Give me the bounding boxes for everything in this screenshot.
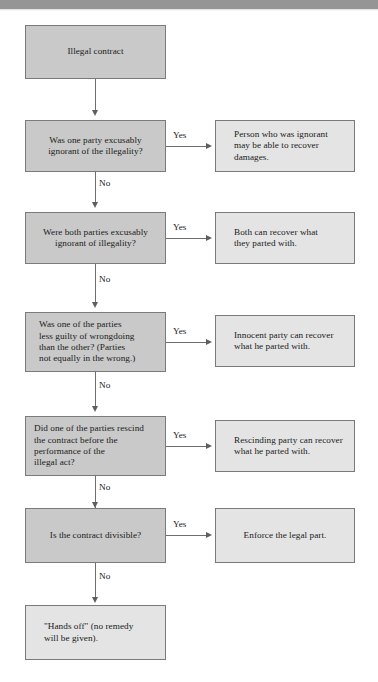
connector-q5-no	[95, 563, 96, 599]
node-q3-less-guilty[interactable]: Was one of the parties less guilty of wr…	[25, 312, 166, 372]
edge-label-q4-no: No	[99, 482, 110, 492]
node-q5-label: Is the contract divisible?	[26, 530, 165, 541]
edge-label-q5-yes: Yes	[173, 519, 186, 529]
edge-label-q4-yes: Yes	[173, 430, 186, 440]
arrowhead-q2-no	[92, 302, 98, 308]
node-q1-one-party-ignorant[interactable]: Was one party excusably ignorant of the …	[25, 120, 166, 172]
arrowhead-q4-yes	[206, 443, 212, 449]
top-bar-shadow	[0, 9, 378, 11]
node-q4-label: Did one of the parties rescind the contr…	[26, 423, 165, 469]
node-a4-label: Rescinding party can recover what he par…	[216, 435, 354, 458]
node-end-label: "Hands off" (no remedy will be given).	[26, 621, 165, 644]
arrowhead-q1-yes	[206, 143, 212, 149]
node-q5-contract-divisible[interactable]: Is the contract divisible?	[25, 508, 166, 563]
top-gray-bar	[0, 0, 378, 9]
connector-q4-yes	[166, 446, 208, 447]
connector-q1-yes	[166, 146, 208, 147]
connector-q3-yes	[166, 342, 208, 343]
connector-q2-yes	[166, 238, 208, 239]
connector-q1-no	[95, 172, 96, 204]
edge-label-q1-yes: Yes	[173, 130, 186, 140]
node-a3-label: Innocent party can recover what he parte…	[216, 330, 354, 353]
edge-label-q3-no: No	[99, 380, 110, 390]
connector-q5-yes	[166, 535, 208, 536]
node-q3-label: Was one of the parties less guilty of wr…	[26, 319, 165, 365]
edge-label-q2-yes: Yes	[173, 222, 186, 232]
node-end-hands-off[interactable]: "Hands off" (no remedy will be given).	[25, 605, 166, 660]
edge-label-q5-no: No	[99, 571, 110, 581]
node-start-illegal-contract[interactable]: Illegal contract	[25, 25, 166, 79]
node-a3-innocent-party-recover[interactable]: Innocent party can recover what he parte…	[215, 315, 355, 367]
arrowhead-q3-no	[92, 406, 98, 412]
node-a1-recover-damages[interactable]: Person who was ignorant may be able to r…	[215, 120, 355, 172]
node-q4-rescind-before-performance[interactable]: Did one of the parties rescind the contr…	[25, 416, 166, 476]
node-q2-both-parties-ignorant[interactable]: Were both parties excusably ignorant of …	[25, 212, 166, 264]
arrowhead-start-to-q1	[92, 110, 98, 116]
node-a4-rescinding-party-recover[interactable]: Rescinding party can recover what he par…	[215, 420, 355, 472]
node-a5-label: Enforce the legal part.	[216, 530, 354, 541]
arrowhead-q3-yes	[206, 339, 212, 345]
arrowhead-q5-no	[92, 597, 98, 603]
connector-q2-no	[95, 264, 96, 304]
arrowhead-q2-yes	[206, 235, 212, 241]
connector-q3-no	[95, 372, 96, 408]
node-q2-label: Were both parties excusably ignorant of …	[26, 227, 165, 250]
node-a5-enforce-legal-part[interactable]: Enforce the legal part.	[215, 508, 355, 563]
edge-label-q2-no: No	[99, 274, 110, 284]
node-a2-label: Both can recover what they parted with.	[216, 227, 354, 250]
node-a1-label: Person who was ignorant may be able to r…	[216, 129, 354, 163]
flowchart-canvas: Illegal contract Was one party excusably…	[0, 0, 378, 682]
edge-label-q3-yes: Yes	[173, 326, 186, 336]
node-start-label: Illegal contract	[26, 46, 165, 57]
node-a2-both-can-recover[interactable]: Both can recover what they parted with.	[215, 212, 355, 264]
edge-label-q1-no: No	[99, 178, 110, 188]
arrowhead-q5-yes	[206, 532, 212, 538]
arrowhead-q1-no	[92, 202, 98, 208]
node-q1-label: Was one party excusably ignorant of the …	[26, 135, 165, 158]
connector-start-to-q1	[95, 79, 96, 112]
